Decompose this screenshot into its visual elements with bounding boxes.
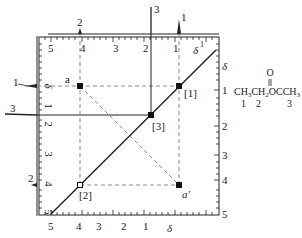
left-peak-2-label: 2 bbox=[28, 172, 34, 184]
bottom-axis-delta: δ bbox=[167, 222, 173, 234]
bottom-axis-ticks bbox=[45, 210, 212, 215]
formula-sub-3b: 3 bbox=[297, 91, 301, 99]
top-tick-2: 2 bbox=[143, 42, 149, 54]
cross-peak-a bbox=[77, 83, 83, 89]
cosy-plot: 2 3 1 1 3 2 5 4 3 2 1 δ 1 5 4 3 2 1 δ δ … bbox=[0, 0, 302, 238]
top-axis-ticks bbox=[45, 37, 212, 42]
plot-frame bbox=[39, 37, 219, 215]
formula-ch-2: CH bbox=[251, 86, 265, 97]
left-peak-1-label: 1 bbox=[13, 76, 19, 88]
top-tick-1: 1 bbox=[173, 42, 179, 54]
cross-peak-3 bbox=[148, 112, 154, 118]
position-label-3: 3 bbox=[287, 98, 292, 109]
diagonal-line bbox=[51, 50, 216, 214]
right-tick-3: 3 bbox=[222, 149, 228, 161]
left-peak-3 bbox=[5, 114, 37, 115]
label-peak-2: [2] bbox=[79, 189, 92, 201]
right-tick-4: 4 bbox=[222, 174, 228, 186]
carbonyl-oxygen: O bbox=[266, 67, 273, 78]
right-axis-delta: δ bbox=[222, 60, 228, 72]
top-peak-2-label: 2 bbox=[77, 16, 83, 28]
formula-ch-1: CH bbox=[234, 86, 248, 97]
label-peak-3: [3] bbox=[152, 120, 165, 132]
bottom-tick-5: 5 bbox=[48, 220, 54, 232]
cross-peak-1 bbox=[176, 83, 182, 89]
top-axis-delta: δ bbox=[193, 44, 199, 56]
top-tick-3: 3 bbox=[113, 42, 119, 54]
right-axis-ticks bbox=[214, 44, 219, 208]
left-tick-2: 2 bbox=[43, 121, 55, 127]
cosy-diagram: 2 3 1 1 3 2 5 4 3 2 1 δ 1 5 4 3 2 1 δ δ … bbox=[0, 0, 302, 238]
right-tick-2: 2 bbox=[222, 120, 228, 132]
ethyl-acetate-structure: O CH3CH2OCCH3 1 2 3 bbox=[234, 67, 301, 109]
label-a: a bbox=[65, 73, 70, 85]
cross-peak-2 bbox=[78, 183, 83, 188]
guide-lines bbox=[37, 34, 179, 185]
left-peak-1-leader bbox=[18, 84, 28, 86]
bottom-tick-3: 3 bbox=[96, 220, 102, 232]
left-tick-1: 1 bbox=[43, 103, 55, 109]
position-label-1: 1 bbox=[241, 98, 246, 109]
label-peak-1: [1] bbox=[184, 87, 197, 99]
position-label-2: 2 bbox=[256, 98, 261, 109]
label-a-prime: a' bbox=[182, 188, 191, 200]
top-peak-2 bbox=[78, 28, 82, 34]
top-tick-4: 4 bbox=[80, 42, 86, 54]
right-tick-5: 5 bbox=[222, 208, 228, 220]
formula-occh: OCCH bbox=[269, 86, 297, 97]
top-peak-1-label: 1 bbox=[181, 11, 187, 23]
top-tick-5: 5 bbox=[48, 42, 54, 54]
top-peak-3-label: 3 bbox=[154, 3, 160, 15]
top-axis-delta-sup: 1 bbox=[200, 40, 204, 49]
bottom-tick-1: 1 bbox=[143, 220, 149, 232]
bottom-tick-4: 4 bbox=[76, 220, 82, 232]
right-tick-1: 1 bbox=[222, 84, 228, 96]
left-peak-3-label: 3 bbox=[10, 102, 16, 114]
left-tick-4: 4 bbox=[43, 181, 55, 187]
bottom-tick-2: 2 bbox=[121, 220, 127, 232]
left-tick-3: 3 bbox=[43, 151, 55, 157]
